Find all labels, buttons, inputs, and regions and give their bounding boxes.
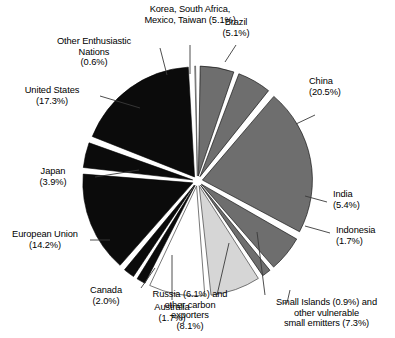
- slice-label-other-enthusiastic-nations: Other Enthusiastic Nations (0.6%): [30, 36, 158, 68]
- pie-chart-figure: Korea, South Africa, Mexico, Taiwan (5.1…: [0, 0, 395, 338]
- pie-slices-group: [83, 66, 313, 296]
- slice-label-canada: Canada (2.0%): [72, 285, 140, 306]
- leader-line-china: [296, 115, 315, 124]
- slice-label-india: India (5.4%): [333, 189, 391, 210]
- leader-line-indonesia: [305, 226, 330, 233]
- slice-label-brazil: Brazil (5.1%): [205, 17, 267, 38]
- leader-line-brazil: [225, 45, 236, 62]
- slice-label-australia: Australia (1.7%): [136, 302, 208, 323]
- slice-label-japan: Japan (3.9%): [16, 166, 90, 187]
- slice-label-indonesia: Indonesia (1.7%): [336, 225, 394, 246]
- slice-label-small-islands: Small Islands (0.9%) and other vulnerabl…: [258, 297, 395, 329]
- leader-line-other-enthusiastic-nations: [160, 48, 167, 75]
- pie-slice-other-enthusiastic-nations[interactable]: [195, 66, 198, 176]
- slice-label-european-union: European Union (14.2%): [1, 229, 89, 250]
- slice-label-china: China (20.5%): [309, 76, 391, 97]
- slice-label-united-states: United States (17.3%): [6, 85, 98, 106]
